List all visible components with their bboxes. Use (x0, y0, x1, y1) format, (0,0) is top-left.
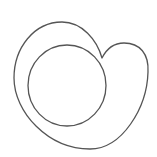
drawing-canvas: Line drawing: asymmetric heart-shaped ou… (0, 0, 157, 157)
inner-circle-shape (28, 45, 106, 126)
heart-circle-icon (0, 0, 157, 157)
heart-outline-shape (14, 22, 148, 149)
